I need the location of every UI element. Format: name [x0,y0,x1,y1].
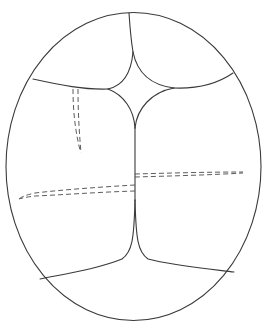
left-short-trace-inner-line [78,89,81,153]
star-bottom-left-edge-line [108,89,135,128]
skull-outline [6,13,261,321]
star-bottom-right-edge-line [135,88,174,128]
star-top-left-edge-line [108,52,133,89]
lower-left-branch-line [40,200,135,279]
left-short-trace-outer-line [73,89,80,150]
star-top-right-edge-line [133,52,174,88]
dashed-trace-lines [19,89,243,199]
suture-lines [33,13,234,279]
left-long-trace-bottom-line [19,191,135,199]
skull-suture-diagram [0,0,266,325]
lower-right-branch-line [135,200,234,272]
top-suture-line [129,13,133,52]
right-coronal-suture-line [174,73,233,88]
left-coronal-suture-line [33,79,108,89]
